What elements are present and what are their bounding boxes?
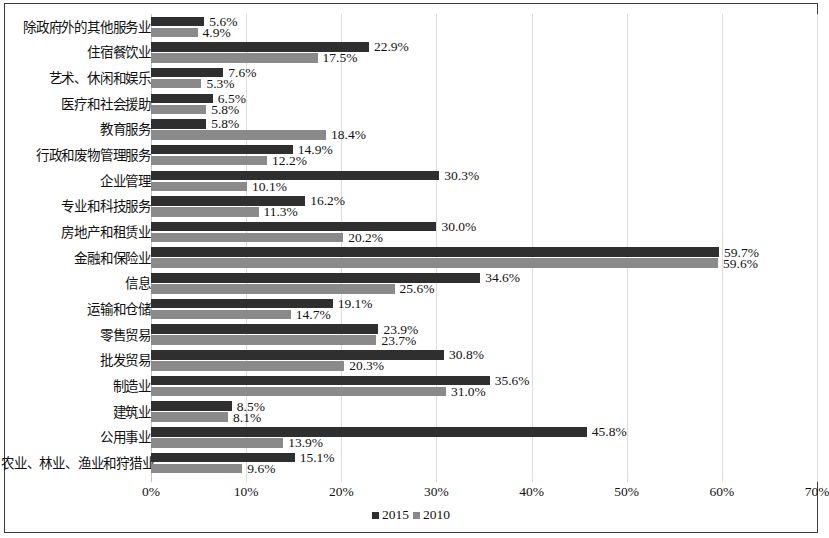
bar-2010[interactable]	[151, 105, 206, 115]
bar-2010[interactable]	[151, 156, 267, 166]
bar-2010[interactable]	[151, 79, 201, 89]
bar-row[interactable]: 运输和仓储19.1%14.7%	[5, 296, 819, 322]
bar-2015[interactable]	[151, 247, 719, 257]
bar-2010[interactable]	[151, 258, 718, 268]
bar-value-label: 12.2%	[272, 154, 307, 167]
bar-row[interactable]: 信息34.6%25.6%	[5, 271, 819, 297]
category-label: 农业、林业、渔业和狩猎业	[1, 455, 151, 470]
bar-row[interactable]: 住宿餐饮业22.9%17.5%	[5, 40, 819, 66]
category-label: 房地产和租赁业	[1, 225, 151, 240]
bar-line-2015: 7.6%	[151, 68, 817, 78]
bar-2010[interactable]	[151, 361, 344, 371]
x-axis-tick-label: 0%	[142, 484, 160, 500]
category-label: 专业和科技服务	[1, 199, 151, 214]
bar-row[interactable]: 公用事业45.8%13.9%	[5, 425, 819, 451]
bar-value-label: 20.2%	[348, 231, 383, 244]
legend-swatch-icon	[372, 512, 379, 519]
bar-line-2015: 45.8%	[151, 427, 817, 437]
bar-2010[interactable]	[151, 182, 247, 192]
bar-group: 30.0%20.2%	[151, 219, 817, 245]
bar-2015[interactable]	[151, 119, 206, 129]
bar-row[interactable]: 教育服务5.8%18.4%	[5, 117, 819, 143]
bar-row[interactable]: 专业和科技服务16.2%11.3%	[5, 194, 819, 220]
bar-line-2010: 59.6%	[151, 258, 817, 268]
bar-2015[interactable]	[151, 222, 436, 232]
bar-value-label: 15.1%	[300, 451, 335, 464]
bar-2010[interactable]	[151, 335, 376, 345]
x-axis-tick-label: 10%	[234, 484, 259, 500]
bar-line-2015: 5.6%	[151, 17, 817, 27]
bar-row[interactable]: 艺术、休闲和娱乐7.6%5.3%	[5, 65, 819, 91]
bar-2010[interactable]	[151, 284, 395, 294]
bar-value-label: 13.9%	[288, 436, 323, 449]
legend-item-2010[interactable]: 2010	[413, 507, 450, 523]
legend-label: 2015	[382, 507, 409, 523]
bar-rows-container: 除政府外的其他服务业5.6%4.9%住宿餐饮业22.9%17.5%艺术、休闲和娱…	[5, 14, 819, 476]
bar-value-label: 5.8%	[211, 117, 239, 130]
x-axis-tick-label: 20%	[329, 484, 354, 500]
bar-value-label: 10.1%	[252, 180, 287, 193]
bar-2015[interactable]	[151, 401, 232, 411]
bar-row[interactable]: 零售贸易23.9%23.7%	[5, 322, 819, 348]
category-label: 企业管理	[1, 173, 151, 188]
chart-frame: 除政府外的其他服务业5.6%4.9%住宿餐饮业22.9%17.5%艺术、休闲和娱…	[4, 3, 818, 533]
x-axis-tick-label: 60%	[709, 484, 734, 500]
bar-row[interactable]: 企业管理30.3%10.1%	[5, 168, 819, 194]
bar-row[interactable]: 房地产和租赁业30.0%20.2%	[5, 219, 819, 245]
bar-line-2010: 25.6%	[151, 284, 817, 294]
bar-2010[interactable]	[151, 130, 326, 140]
legend-item-2015[interactable]: 2015	[372, 507, 409, 523]
bar-group: 5.6%4.9%	[151, 14, 817, 40]
bar-line-2010: 4.9%	[151, 28, 817, 38]
bar-2010[interactable]	[151, 438, 283, 448]
bar-2010[interactable]	[151, 28, 198, 38]
category-label: 运输和仓储	[1, 302, 151, 317]
bar-row[interactable]: 批发贸易30.8%20.3%	[5, 348, 819, 374]
bar-row[interactable]: 金融和保险业59.7%59.6%	[5, 245, 819, 271]
bar-2015[interactable]	[151, 171, 439, 181]
bar-row[interactable]: 建筑业8.5%8.1%	[5, 399, 819, 425]
bar-line-2010: 23.7%	[151, 335, 817, 345]
bar-2010[interactable]	[151, 387, 446, 397]
category-label: 艺术、休闲和娱乐	[1, 71, 151, 86]
bar-line-2010: 13.9%	[151, 438, 817, 448]
bar-row[interactable]: 制造业35.6%31.0%	[5, 373, 819, 399]
bar-2010[interactable]	[151, 207, 259, 217]
bar-2015[interactable]	[151, 324, 378, 334]
bar-2015[interactable]	[151, 350, 444, 360]
bar-2010[interactable]	[151, 53, 318, 63]
bar-group: 6.5%5.8%	[151, 91, 817, 117]
bar-value-label: 30.0%	[441, 220, 476, 233]
bar-2010[interactable]	[151, 464, 242, 474]
bar-row[interactable]: 行政和废物管理服务14.9%12.2%	[5, 142, 819, 168]
bar-2015[interactable]	[151, 427, 587, 437]
bar-value-label: 5.3%	[206, 77, 234, 90]
bar-line-2010: 5.3%	[151, 79, 817, 89]
bar-value-label: 23.7%	[381, 334, 416, 347]
bar-value-label: 25.6%	[400, 282, 435, 295]
bar-2010[interactable]	[151, 233, 343, 243]
x-axis-tick-label: 40%	[519, 484, 544, 500]
bar-row[interactable]: 医疗和社会援助6.5%5.8%	[5, 91, 819, 117]
bar-line-2015: 22.9%	[151, 42, 817, 52]
bar-value-label: 45.8%	[592, 425, 627, 438]
bar-value-label: 22.9%	[374, 40, 409, 53]
bar-line-2010: 9.6%	[151, 464, 817, 474]
bar-value-label: 19.1%	[338, 297, 373, 310]
bar-value-label: 17.5%	[323, 51, 358, 64]
bar-line-2015: 19.1%	[151, 299, 817, 309]
bar-2015[interactable]	[151, 376, 490, 386]
bar-value-label: 20.3%	[349, 359, 384, 372]
bar-2010[interactable]	[151, 310, 291, 320]
bar-group: 45.8%13.9%	[151, 425, 817, 451]
bar-row[interactable]: 除政府外的其他服务业5.6%4.9%	[5, 14, 819, 40]
bar-2015[interactable]	[151, 17, 204, 27]
bar-group: 34.6%25.6%	[151, 271, 817, 297]
bar-line-2010: 20.3%	[151, 361, 817, 371]
bar-2015[interactable]	[151, 94, 213, 104]
bar-line-2010: 17.5%	[151, 53, 817, 63]
bar-line-2015: 30.8%	[151, 350, 817, 360]
bar-row[interactable]: 农业、林业、渔业和狩猎业15.1%9.6%	[5, 450, 819, 476]
bar-value-label: 14.7%	[296, 308, 331, 321]
bar-2010[interactable]	[151, 412, 228, 422]
